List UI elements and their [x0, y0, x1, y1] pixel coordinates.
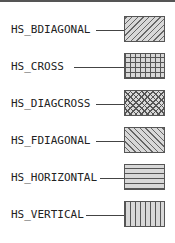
- hatch-label: HS_BDIAGONAL: [11, 16, 90, 44]
- hatch-label: HS_DIAGCROSS: [11, 90, 90, 118]
- hatch-row-diagcross: HS_DIAGCROSS: [0, 90, 175, 118]
- hatch-row-fdiagonal: HS_FDIAGONAL: [0, 127, 175, 155]
- leader-line: [86, 215, 124, 216]
- hatch-label: HS_HORIZONTAL: [11, 164, 97, 192]
- vertical-swatch: [124, 201, 165, 227]
- top-border: [0, 0, 175, 2]
- leader-line: [96, 30, 124, 31]
- leader-line: [96, 104, 124, 105]
- hatch-row-horizontal: HS_HORIZONTAL: [0, 164, 175, 192]
- leader-line: [74, 67, 124, 68]
- hatch-label: HS_VERTICAL: [11, 201, 84, 229]
- leader-line: [100, 178, 124, 179]
- diagcross-swatch: [124, 90, 165, 116]
- leader-line: [96, 141, 124, 142]
- hatch-row-cross: HS_CROSS: [0, 53, 175, 81]
- hatch-label: HS_CROSS: [11, 53, 64, 81]
- cross-swatch: [124, 53, 165, 79]
- bdiagonal-swatch: [124, 16, 165, 42]
- hatch-label: HS_FDIAGONAL: [11, 127, 90, 155]
- hatch-row-bdiagonal: HS_BDIAGONAL: [0, 16, 175, 44]
- hatch-row-vertical: HS_VERTICAL: [0, 201, 175, 229]
- fdiagonal-swatch: [124, 127, 165, 153]
- horizontal-swatch: [124, 164, 165, 190]
